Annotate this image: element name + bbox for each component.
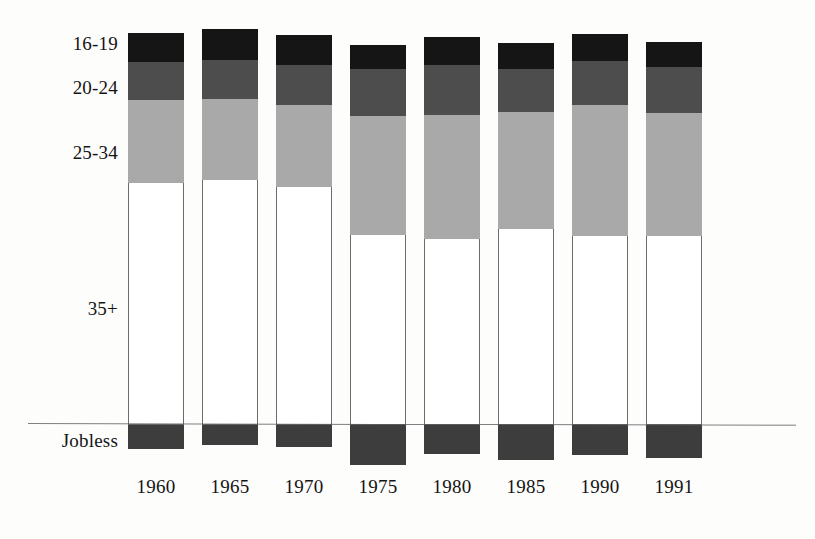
bar-group-1960[interactable] (128, 0, 184, 500)
bar-segment-35-plus (498, 229, 554, 425)
bar-segment-jobless (498, 425, 554, 460)
year-axis-labels: 1960 1965 1970 1975 1980 1985 1990 1991 (0, 476, 815, 510)
bar-segment-jobless (276, 425, 332, 447)
bar-group-1980[interactable] (424, 0, 480, 500)
plot-area (0, 0, 815, 500)
bar-segment-16-19 (202, 29, 258, 60)
bar-segment-20-24 (498, 69, 554, 112)
bar-segment-16-19 (424, 37, 480, 65)
bar-group-1970[interactable] (276, 0, 332, 500)
bar-segment-25-34 (646, 113, 702, 236)
bar-segment-20-24 (646, 67, 702, 113)
bar-segment-35-plus (202, 180, 258, 425)
bar-segment-25-34 (128, 100, 184, 183)
bar-segment-25-34 (424, 115, 480, 239)
bar-segment-jobless (646, 425, 702, 458)
bar-segment-25-34 (572, 105, 628, 236)
bar-segment-20-24 (350, 69, 406, 116)
bar-segment-jobless (572, 425, 628, 455)
bar-segment-16-19 (128, 33, 184, 62)
bar-segment-25-34 (276, 105, 332, 187)
bar-group-1985[interactable] (498, 0, 554, 500)
stacked-bar-chart: 16-19 20-24 25-34 35+ Jobless (0, 0, 815, 539)
bar-group-1991[interactable] (646, 0, 702, 500)
bar-segment-20-24 (276, 65, 332, 105)
bar-segment-20-24 (202, 60, 258, 99)
year-label-1970: 1970 (272, 476, 336, 498)
bar-segment-25-34 (350, 116, 406, 235)
year-label-1991: 1991 (642, 476, 706, 498)
year-label-1965: 1965 (198, 476, 262, 498)
bar-segment-16-19 (646, 42, 702, 67)
year-label-1975: 1975 (346, 476, 410, 498)
bar-segment-35-plus (646, 236, 702, 425)
bar-segment-25-34 (498, 112, 554, 229)
bar-segment-20-24 (128, 62, 184, 100)
year-label-1960: 1960 (124, 476, 188, 498)
bar-segment-20-24 (572, 61, 628, 105)
bar-segment-16-19 (350, 45, 406, 69)
bar-group-1990[interactable] (572, 0, 628, 500)
bar-segment-35-plus (276, 187, 332, 425)
year-label-1980: 1980 (420, 476, 484, 498)
bar-segment-jobless (350, 425, 406, 465)
bar-segment-35-plus (350, 235, 406, 425)
bar-segment-jobless (128, 425, 184, 449)
bar-group-1975[interactable] (350, 0, 406, 500)
year-label-1990: 1990 (568, 476, 632, 498)
bar-segment-16-19 (572, 34, 628, 61)
bar-segment-35-plus (128, 183, 184, 425)
bar-segment-35-plus (424, 239, 480, 425)
bar-group-1965[interactable] (202, 0, 258, 500)
bar-segment-16-19 (498, 43, 554, 69)
year-label-1985: 1985 (494, 476, 558, 498)
bar-segment-16-19 (276, 35, 332, 65)
bar-segment-20-24 (424, 65, 480, 115)
bar-segment-jobless (202, 425, 258, 445)
bar-segment-jobless (424, 425, 480, 454)
bar-segment-25-34 (202, 99, 258, 180)
bar-segment-35-plus (572, 236, 628, 425)
